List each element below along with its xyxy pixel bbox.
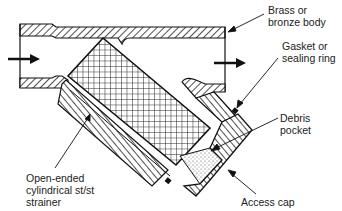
label-strainer: Open-ended cylindrical st/st strainer (26, 172, 94, 208)
label-brass-body: Brass or bronze body (268, 4, 326, 28)
body-bottom-inlet-wall (20, 76, 68, 88)
label-debris-pocket: Debris pocket (280, 112, 342, 136)
label-access-cap: Access cap (241, 196, 295, 208)
outlet-flow-arrow (214, 58, 246, 68)
inlet-flow-arrow (8, 54, 40, 64)
label-gasket: Gasket or sealing ring (282, 40, 336, 64)
